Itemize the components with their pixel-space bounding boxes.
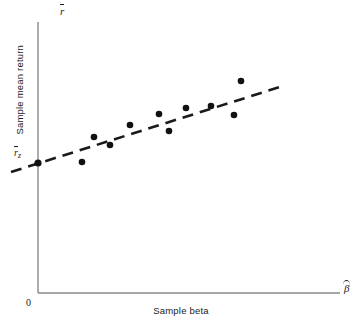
- regression-line-group: [11, 86, 283, 172]
- data-point-6: [166, 128, 173, 135]
- y-axis-caption: Sample mean return: [15, 15, 25, 165]
- data-points-group: [79, 78, 245, 166]
- regression-line: [11, 86, 283, 172]
- intercept-marker-group: [34, 159, 41, 166]
- data-point-9: [231, 112, 238, 119]
- data-point-10: [238, 78, 245, 85]
- chart-figure: r β rz 0 Sample beta Sample mean return: [0, 0, 362, 323]
- data-point-3: [107, 142, 114, 149]
- data-point-5: [156, 111, 163, 118]
- data-point-8: [208, 103, 215, 110]
- y-axis-variable-symbol: r: [60, 6, 64, 17]
- x-axis-variable-symbol: β: [344, 283, 349, 294]
- data-point-2: [91, 134, 98, 141]
- data-point-1: [79, 159, 86, 166]
- intercept-marker: [34, 159, 41, 166]
- axes-group: [38, 22, 340, 293]
- x-axis-caption: Sample beta: [0, 306, 362, 316]
- y-axis-symbol-text: r: [60, 5, 64, 17]
- data-point-4: [127, 122, 134, 129]
- scatter-plot-canvas: [0, 0, 362, 323]
- data-point-7: [183, 105, 190, 112]
